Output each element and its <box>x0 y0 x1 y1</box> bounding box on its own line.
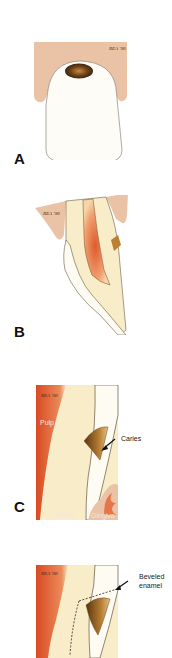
tooth-section-illustration: REA '90 <box>0 195 172 335</box>
panel-a: REA '90 A <box>0 0 172 160</box>
panel-d: Beveled enamel REA '90 <box>0 565 172 658</box>
enamel-label: enamel <box>139 582 162 589</box>
signature: REA '90 <box>40 571 58 576</box>
panel-label-a: A <box>14 150 25 167</box>
gingiva-label: Gingiva <box>91 512 115 520</box>
caries-detail-illustration: Caries REA '90 Pulp Dentin Gingiva <box>0 385 172 520</box>
tooth-front-illustration: REA '90 <box>0 0 172 160</box>
signature: REA '90 <box>40 393 58 398</box>
signature: REA '90 <box>42 211 60 216</box>
panel-label-c: C <box>14 498 25 515</box>
beveled-label: Beveled <box>139 573 164 580</box>
signature: REA '90 <box>108 46 126 51</box>
panel-b: REA '90 B <box>0 195 172 335</box>
dentin-label: Dentin <box>55 511 75 518</box>
caries-label: Caries <box>121 435 142 442</box>
beveled-preparation-illustration: Beveled enamel REA '90 <box>0 565 172 658</box>
pulp-label: Pulp <box>40 419 54 427</box>
panel-c: Caries REA '90 Pulp Dentin Gingiva C <box>0 385 172 520</box>
panel-label-b: B <box>14 323 25 340</box>
